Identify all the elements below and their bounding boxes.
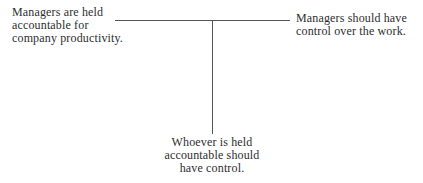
premise-right-line-2: control over the work. (296, 25, 407, 38)
premise-right-node: Managers should have control over the wo… (296, 12, 407, 38)
conclusion-line-3: have control. (152, 162, 272, 175)
conclusion-node: Whoever is held accountable should have … (152, 136, 272, 175)
premise-left-node: Managers are held accountable for compan… (12, 6, 123, 45)
premise-left-line-3: company productivity. (12, 32, 123, 45)
